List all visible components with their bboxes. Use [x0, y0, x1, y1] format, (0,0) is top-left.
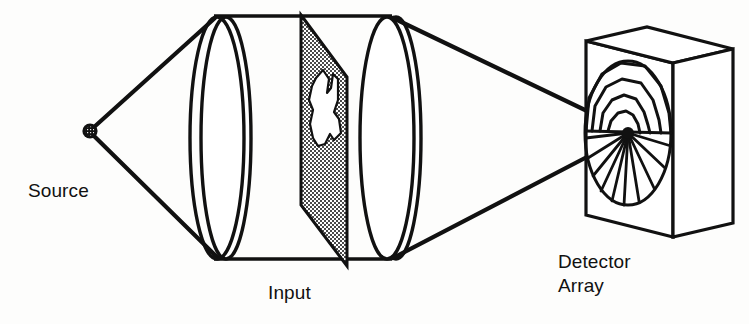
collimating-lens	[190, 17, 251, 259]
label-input: Input	[268, 282, 311, 303]
source-dot-core	[85, 126, 94, 135]
input-aperture-shape	[309, 70, 341, 146]
optical-system-diagram: Source Input Detector Array	[0, 0, 749, 324]
transform-lens	[360, 17, 421, 259]
input-transparency	[301, 15, 347, 266]
detector-right-face	[673, 49, 733, 237]
figure-canvas: Source Input Detector Array	[0, 0, 749, 324]
label-source: Source	[28, 180, 89, 201]
detector-center-hub	[622, 127, 634, 139]
lens-right-front-ellipse	[360, 17, 414, 259]
point-source	[82, 123, 97, 138]
lens-left-front-ellipse	[190, 17, 244, 259]
label-detector-line1: Detector	[558, 251, 631, 272]
label-detector-line2: Array	[558, 275, 604, 296]
